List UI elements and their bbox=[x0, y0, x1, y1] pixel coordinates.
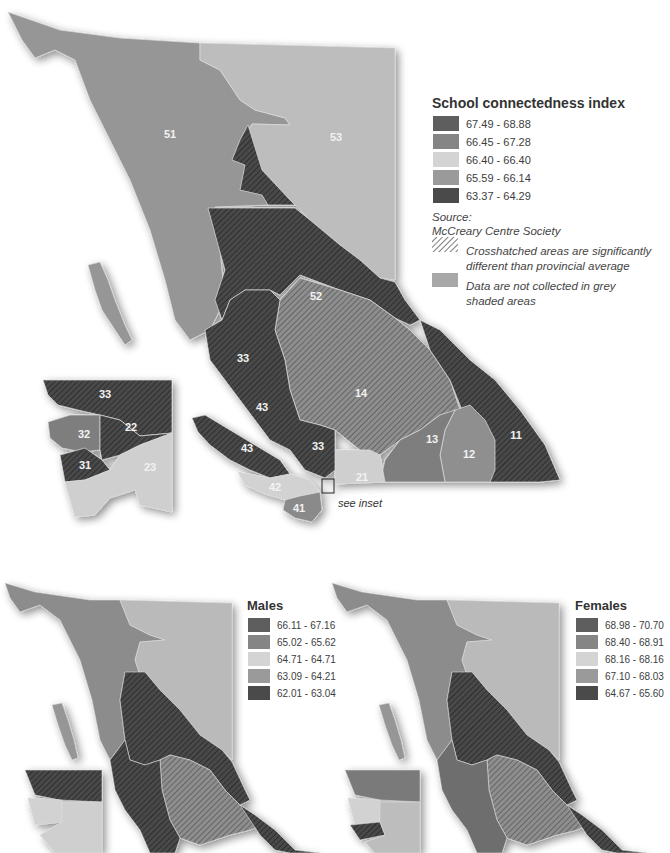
inset-label-23: 23 bbox=[144, 461, 156, 473]
label-51: 51 bbox=[164, 128, 176, 140]
males-legend: Males 66.11 - 67.16 65.02 - 65.62 64.71 … bbox=[247, 598, 336, 702]
legend-item: 68.98 - 70.70 bbox=[575, 617, 664, 633]
label-11: 11 bbox=[510, 429, 522, 441]
legend-item: 67.10 - 68.03 bbox=[575, 668, 664, 684]
legend-range: 62.01 - 63.04 bbox=[277, 688, 336, 699]
crosshatch-note-row: Crosshatched areas are significantly dif… bbox=[432, 244, 667, 274]
legend-range: 66.11 - 67.16 bbox=[277, 620, 335, 631]
males-legend-title: Males bbox=[247, 598, 336, 613]
females-haida-gwaii[interactable] bbox=[379, 703, 405, 760]
legend-swatch bbox=[575, 685, 599, 701]
legend-range: 68.16 - 68.16 bbox=[605, 654, 664, 665]
label-14: 14 bbox=[355, 387, 368, 399]
legend-item: 63.09 - 64.21 bbox=[247, 668, 336, 684]
legend-range: 66.40 - 66.40 bbox=[466, 154, 531, 166]
legend-item: 62.01 - 63.04 bbox=[247, 685, 336, 701]
label-33-b: 33 bbox=[312, 440, 324, 452]
legend-item: 68.40 - 68.91 bbox=[575, 634, 664, 650]
crosshatch-icon-spacer bbox=[432, 246, 458, 261]
legend-swatch bbox=[432, 169, 460, 186]
inset-map bbox=[43, 380, 172, 517]
legend-range: 64.71 - 64.71 bbox=[277, 654, 336, 665]
legend-swatch bbox=[575, 668, 599, 684]
haida-gwaii[interactable] bbox=[88, 262, 132, 345]
legend-item: 64.71 - 64.71 bbox=[247, 651, 336, 667]
label-53: 53 bbox=[330, 131, 342, 143]
legend-item: 63.37 - 64.29 bbox=[432, 187, 667, 204]
legend-range: 66.45 - 67.28 bbox=[466, 136, 531, 148]
label-21: 21 bbox=[356, 471, 368, 483]
label-52: 52 bbox=[310, 290, 322, 302]
females-inset-west[interactable] bbox=[348, 798, 380, 825]
inset-marker[interactable] bbox=[322, 479, 334, 493]
males-inset-north[interactable] bbox=[25, 770, 102, 802]
legend-range: 68.40 - 68.91 bbox=[605, 637, 664, 648]
females-inset-north[interactable] bbox=[345, 770, 420, 802]
legend-swatch bbox=[247, 685, 271, 701]
inset-region-32[interactable] bbox=[48, 415, 100, 452]
legend-item: 66.11 - 67.16 bbox=[247, 617, 336, 633]
label-12: 12 bbox=[463, 448, 475, 460]
source-name: McCreary Centre Society bbox=[432, 224, 667, 238]
females-legend-title: Females bbox=[575, 598, 664, 613]
females-legend: Females 68.98 - 70.70 68.40 - 68.91 68.1… bbox=[575, 598, 664, 702]
legend-item: 65.02 - 65.62 bbox=[247, 634, 336, 650]
source-note: Source: McCreary Centre Society bbox=[432, 210, 667, 238]
legend-swatch bbox=[575, 634, 599, 650]
inset-label-32: 32 bbox=[78, 428, 90, 440]
legend-item: 64.67 - 65.60 bbox=[575, 685, 664, 701]
legend-range: 63.09 - 64.21 bbox=[277, 671, 336, 682]
grey-note-row: Data are not collected in grey shaded ar… bbox=[432, 279, 667, 309]
label-33: 33 bbox=[237, 352, 249, 364]
legend-title: School connectedness index bbox=[432, 95, 667, 111]
legend-item: 65.59 - 66.14 bbox=[432, 169, 667, 186]
crosshatch-note: Crosshatched areas are significantly dif… bbox=[466, 244, 656, 274]
legend-swatch bbox=[432, 151, 460, 168]
legend-range: 65.59 - 66.14 bbox=[466, 172, 531, 184]
legend-swatch bbox=[247, 668, 271, 684]
legend-swatch bbox=[575, 651, 599, 667]
inset-label-33: 33 bbox=[99, 388, 111, 400]
legend-swatch bbox=[432, 187, 460, 204]
source-label: Source: bbox=[432, 210, 667, 224]
label-42: 42 bbox=[269, 481, 281, 493]
grey-note: Data are not collected in grey shaded ar… bbox=[466, 279, 616, 309]
legend-item: 66.45 - 67.28 bbox=[432, 133, 667, 150]
grey-icon-spacer bbox=[432, 281, 458, 296]
legend-item: 67.49 - 68.88 bbox=[432, 115, 667, 132]
males-haida-gwaii[interactable] bbox=[52, 703, 78, 760]
legend-swatch bbox=[247, 617, 271, 633]
legend-range: 64.67 - 65.60 bbox=[605, 688, 664, 699]
legend-swatch bbox=[247, 634, 271, 650]
legend-swatch bbox=[432, 115, 460, 132]
legend-range: 68.98 - 70.70 bbox=[605, 620, 664, 631]
inset-label-22: 22 bbox=[125, 421, 137, 433]
males-inset-west[interactable] bbox=[28, 798, 62, 825]
legend-range: 67.49 - 68.88 bbox=[466, 118, 531, 130]
see-inset-label: see inset bbox=[338, 497, 382, 509]
legend-swatch bbox=[247, 651, 271, 667]
legend-item: 66.40 - 66.40 bbox=[432, 151, 667, 168]
legend-swatch bbox=[432, 133, 460, 150]
legend-swatch bbox=[575, 617, 599, 633]
legend-item: 68.16 - 68.16 bbox=[575, 651, 664, 667]
main-legend: School connectedness index 67.49 - 68.88… bbox=[432, 95, 667, 309]
label-41: 41 bbox=[293, 502, 305, 514]
label-43-b: 43 bbox=[241, 442, 253, 454]
inset-label-31: 31 bbox=[79, 459, 91, 471]
legend-range: 63.37 - 64.29 bbox=[466, 190, 531, 202]
label-43-a: 43 bbox=[256, 401, 268, 413]
legend-range: 65.02 - 65.62 bbox=[277, 637, 336, 648]
legend-range: 67.10 - 68.03 bbox=[605, 671, 664, 682]
label-13: 13 bbox=[426, 433, 438, 445]
